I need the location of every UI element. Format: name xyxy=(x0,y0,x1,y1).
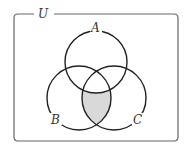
set-c-label: C xyxy=(133,113,142,127)
set-b-label: B xyxy=(50,113,60,127)
set-a-label: A xyxy=(90,21,100,35)
venn-diagram: U A B C xyxy=(0,0,190,150)
universe-label: U xyxy=(38,7,49,21)
